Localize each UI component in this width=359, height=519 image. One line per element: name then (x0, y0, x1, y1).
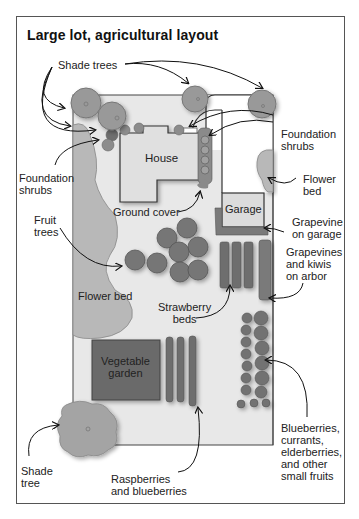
strawberry-beds (220, 242, 253, 288)
grapevine-garage-label: Grapevine on garage (292, 216, 343, 240)
foundation-shrubs-right-label: Foundation shrubs (281, 128, 336, 152)
grapevines-kiwis-label: Grapevines and kiwis on arbor (286, 246, 342, 282)
grapevines-arbor (259, 240, 271, 300)
ground-cover-label: Ground cover (113, 206, 180, 218)
strawberry-beds-label: Strawberry beds (158, 301, 211, 325)
flower-bed-left-label: Flower bed (78, 290, 132, 303)
foundation-shrubs-left-label: Foundation shrubs (19, 172, 74, 196)
small-fruits-label: Blueberries, currants, elderberries, and… (281, 422, 342, 482)
house-label: House (145, 152, 178, 165)
shade-tree-bottom-label: Shade tree (21, 465, 53, 489)
vegetable-garden-label: Vegetable garden (101, 355, 150, 379)
flower-bed-right-label: Flower bed (303, 173, 336, 197)
fruit-trees-label: Fruit trees (34, 214, 58, 238)
foundation-shrubs-right (198, 128, 212, 184)
raspberry-rows (166, 336, 196, 406)
shade-trees-label: Shade trees (58, 59, 117, 71)
shade-tree-bottom (57, 401, 117, 457)
raspberries-label: Raspberries and blueberries (111, 473, 187, 497)
garage-label: Garage (225, 203, 262, 216)
